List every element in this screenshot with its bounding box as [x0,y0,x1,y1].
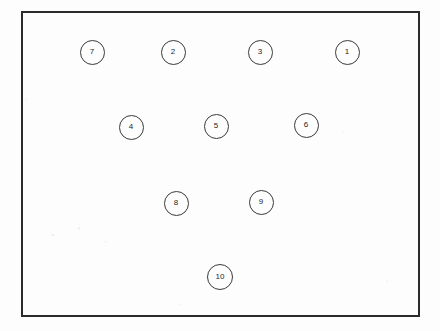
node-8[interactable]: 8 [164,191,189,216]
node-label: 6 [304,121,309,129]
node-3[interactable]: 3 [248,40,273,65]
node-4[interactable]: 4 [119,115,144,140]
node-label: 4 [129,123,134,131]
node-label: 8 [174,199,179,207]
node-2[interactable]: 2 [161,40,186,65]
node-5[interactable]: 5 [204,114,229,139]
node-9[interactable]: 9 [249,190,274,215]
node-7[interactable]: 7 [80,40,105,65]
node-label: 3 [258,48,263,56]
node-1[interactable]: 1 [335,40,360,65]
figure-canvas: 72314568910 [0,0,440,331]
node-label: 10 [215,273,224,281]
node-10[interactable]: 10 [207,264,233,290]
node-label: 2 [171,48,176,56]
node-6[interactable]: 6 [294,113,319,138]
node-label: 9 [259,198,264,206]
node-label: 7 [90,48,95,56]
node-label: 5 [214,122,219,130]
node-label: 1 [345,48,350,56]
